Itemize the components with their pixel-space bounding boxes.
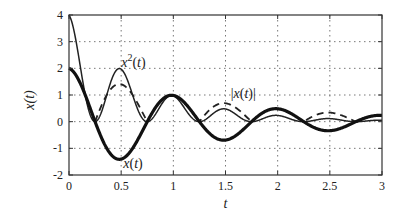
y-tick-label: 1	[57, 88, 63, 102]
y-tick-label: -2	[53, 168, 63, 182]
x-tick-label: 0.5	[114, 179, 129, 193]
grid-lines	[69, 15, 382, 175]
annotation-label: x2(t)	[120, 52, 146, 71]
x-tick-label: 0	[66, 179, 72, 193]
y-tick-label: -1	[53, 141, 63, 155]
x-tick-label: 3	[379, 179, 385, 193]
y-tick-label: 3	[57, 35, 63, 49]
annotation-label: |x(t)|	[231, 86, 256, 102]
series-lines	[69, 15, 382, 159]
y-tick-label: 4	[57, 8, 63, 22]
x-tick-label: 1.5	[218, 179, 233, 193]
x-tick-label: 1	[170, 179, 176, 193]
y-tick-label: 0	[57, 115, 63, 129]
annotation-label: x(t)	[122, 156, 143, 172]
x-tick-label: 2	[275, 179, 281, 193]
axis-ticks: 00.511.522.53-2-101234	[53, 8, 385, 193]
damped-oscillation-chart: 00.511.522.53-2-101234 x2(t)|x(t)|x(t) t…	[0, 0, 406, 218]
y-axis-label: x(t)	[22, 90, 38, 111]
x-tick-label: 2.5	[322, 179, 337, 193]
x-axis-label: t	[224, 196, 229, 211]
y-tick-label: 2	[57, 61, 63, 75]
